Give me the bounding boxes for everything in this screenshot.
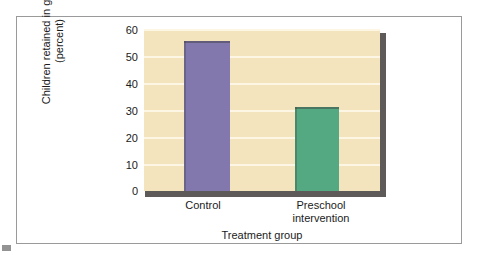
gridline-30 bbox=[144, 110, 380, 112]
x-tick-label-control-line-1: Control bbox=[144, 199, 262, 212]
gridline-50 bbox=[144, 56, 380, 58]
gridline-20 bbox=[144, 137, 380, 139]
bar-chart: 60 50 40 30 20 10 0 Children retained in… bbox=[17, 17, 463, 245]
gridline-40 bbox=[144, 83, 380, 85]
y-axis-title-line-2: (percent) bbox=[53, 19, 66, 63]
x-axis-baseline bbox=[145, 191, 386, 197]
bar-control-top-edge bbox=[184, 41, 230, 43]
gridline-10 bbox=[144, 164, 380, 166]
y-tick-label-60: 60 bbox=[126, 25, 138, 36]
y-tick-label-50: 50 bbox=[126, 52, 138, 63]
bar-control-left-edge bbox=[184, 41, 186, 191]
plot-right-shadow bbox=[380, 33, 386, 195]
x-axis-title: Treatment group bbox=[144, 229, 380, 241]
y-tick-label-40: 40 bbox=[126, 79, 138, 90]
y-tick-label-0: 0 bbox=[132, 186, 138, 197]
gridline-60 bbox=[144, 29, 380, 31]
plot-area: 60 50 40 30 20 10 0 bbox=[144, 29, 380, 191]
x-tick-label-preschool-intervention: Preschool intervention bbox=[262, 199, 380, 225]
y-axis-title-line-1: Children retained in grade bbox=[40, 0, 53, 104]
figure-frame: 60 50 40 30 20 10 0 Children retained in… bbox=[16, 16, 462, 244]
scan-artifact bbox=[2, 245, 11, 251]
x-tick-label-preschool-line-2: intervention bbox=[262, 212, 380, 225]
y-tick-label-20: 20 bbox=[126, 133, 138, 144]
bar-preschool-left-edge bbox=[295, 107, 297, 192]
bar-preschool-top-edge bbox=[295, 107, 339, 109]
y-tick-label-10: 10 bbox=[126, 160, 138, 171]
x-tick-label-control: Control bbox=[144, 199, 262, 212]
y-axis-title: Children retained in grade (percent) bbox=[38, 0, 68, 122]
x-tick-label-preschool-line-1: Preschool bbox=[262, 199, 380, 212]
bar-control bbox=[184, 41, 230, 191]
y-tick-label-30: 30 bbox=[126, 106, 138, 117]
bar-preschool-intervention bbox=[295, 107, 339, 192]
